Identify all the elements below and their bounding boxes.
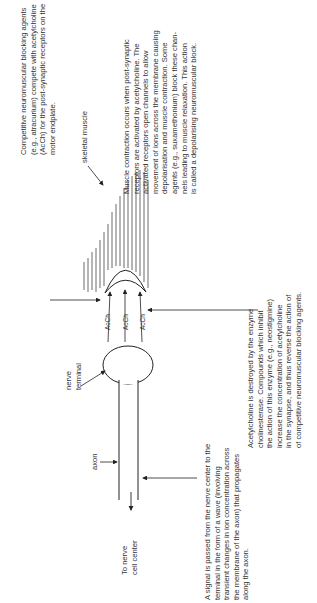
competitive-blocking-note: Competitive neuromuscular blocking agent… xyxy=(19,4,57,155)
note-line: Competitive neuromuscular blocking agent… xyxy=(19,4,29,155)
acch-label-2: AcCh xyxy=(121,314,131,330)
note-line: (e.g., atracurium) compete with acetylch… xyxy=(29,4,39,155)
nerve-terminal-pointer xyxy=(81,371,105,386)
note-line: in the synapse, and thus reverse the act… xyxy=(284,292,294,448)
note-line: movement of ions across the membrane cau… xyxy=(151,30,161,194)
note-line: the action of this enzyme (e.g., neostig… xyxy=(265,292,275,448)
acch-label-3: AcCh xyxy=(138,314,148,330)
note-line: increase the concentration of acetylchol… xyxy=(275,292,285,448)
note-line: (AcCh) for the post-synaptic receptors o… xyxy=(38,4,48,155)
note-line: Acetylcholine is destroyed by the enzyme xyxy=(246,292,256,448)
signal-propagation-note: A signal is passed from the nerve center… xyxy=(203,444,251,600)
muscle-contraction-note: Muscle contraction occurs when post-syna… xyxy=(122,30,199,194)
note-line: receptors are activated by acetylcholine… xyxy=(132,30,142,194)
note-line: is called a depolarising neuromuscular b… xyxy=(189,30,199,194)
skeletal-muscle-pointer xyxy=(88,166,103,185)
cell-center-label-line: To nerve xyxy=(120,540,130,575)
cell-center-label-line: cell center xyxy=(130,540,140,575)
note-line: of competitive neuromuscular blocking ag… xyxy=(294,292,304,448)
note-line: A signal is passed from the nerve center… xyxy=(203,444,213,600)
acch-label-1: AcCh xyxy=(103,314,113,330)
note-line: motor endplate. xyxy=(48,4,58,155)
nerve-terminal-label-line: nerve xyxy=(64,363,74,390)
note-line: transient changes in ion concentration a… xyxy=(222,444,232,600)
to-nerve-cell-center-label: To nerve cell center xyxy=(120,540,139,575)
note-line: cholinesterase. Compounds which inhibit xyxy=(256,292,266,448)
nerve-terminal-label: nerve terminal xyxy=(64,363,83,390)
note-line: the membrane of the axon) that propagate… xyxy=(232,444,242,600)
note-line: activated receptors open channels to all… xyxy=(141,30,151,194)
note-line: terminal in the form of a wave (involvin… xyxy=(213,444,223,600)
note-line: agents (e.g., suxamethonium) block these… xyxy=(170,30,180,194)
note-line: Muscle contraction occurs when post-syna… xyxy=(122,30,132,194)
skeletal-muscle-label: skeletal muscle xyxy=(80,111,90,163)
note-line: along the axon. xyxy=(241,444,251,600)
axon-label: axon xyxy=(90,454,100,470)
note-line: nels leading to muscle relaxation. This … xyxy=(180,30,190,194)
note-line: depolarisation and muscle contraction. S… xyxy=(160,30,170,194)
nerve-terminal-label-line: terminal xyxy=(74,363,84,390)
acetylcholine-note: Acetylcholine is destroyed by the enzyme… xyxy=(246,292,304,448)
nerve-terminal-shape xyxy=(103,346,153,384)
